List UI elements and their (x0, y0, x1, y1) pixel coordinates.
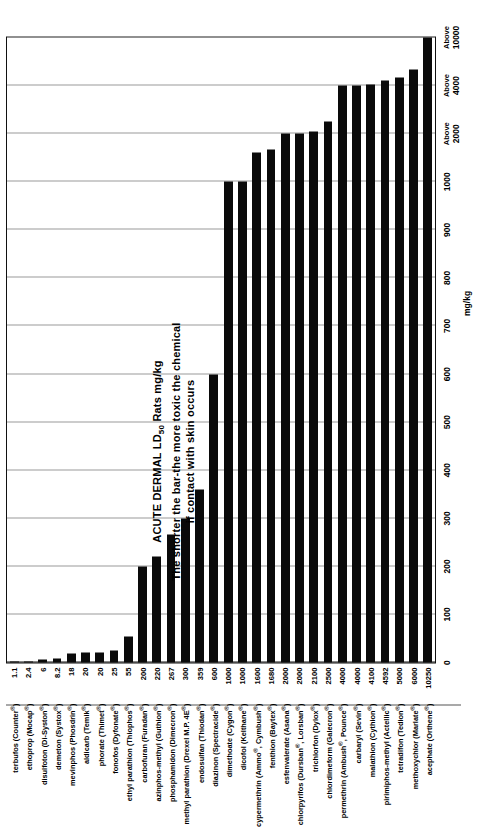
category-label: cypermethrin (Ammo®, Cymbush®) (253, 703, 263, 831)
bar (409, 69, 418, 662)
registered-mark: ® (310, 705, 316, 709)
category-label: ethoprop (Mocap®) (24, 703, 34, 831)
category-label: phorate (Thimet®) (96, 703, 106, 831)
category-label: trichlorfon (Dylox®) (310, 703, 320, 831)
category-label: methyl parathion (Drexel M.P. 4E®) (181, 703, 191, 831)
bar (209, 374, 218, 662)
x-tick-value: 4000 (451, 63, 461, 107)
bar-value-label: 6000 (410, 667, 419, 697)
category-label: dicofol (Kelthane®) (238, 703, 248, 831)
bar (252, 152, 261, 662)
bar (124, 636, 133, 662)
bar-value-label: 4000 (338, 667, 347, 697)
registered-mark: ® (153, 705, 159, 709)
bar (281, 133, 290, 662)
bar-value-label: 5000 (395, 667, 404, 697)
category-label: ethyl parathion (Thiophos®) (124, 703, 134, 831)
bar (366, 84, 375, 662)
bar (67, 653, 76, 662)
category-label: fonofos (Dyfonate®) (110, 703, 120, 831)
category-label: malathion (Cythion®) (367, 703, 377, 831)
category-label: methoxychlor (Marlate®) (410, 703, 420, 831)
registered-mark: ® (139, 705, 145, 709)
bar-value-label: 220 (153, 667, 162, 697)
bar-value-label: 200 (139, 667, 148, 697)
registered-mark: ® (238, 705, 244, 709)
bar (138, 566, 147, 662)
registered-mark: ® (196, 705, 202, 709)
bar-value-label: 20 (96, 667, 105, 697)
registered-mark: ® (395, 705, 401, 709)
x-tick-value: 600 (442, 352, 452, 396)
x-tick-value: 400 (442, 448, 452, 492)
x-tick-label: 500 (442, 400, 452, 444)
bar-value-label: 1000 (224, 667, 233, 697)
bar (423, 37, 432, 662)
bar-value-label: 20 (81, 667, 90, 697)
x-tick-value: 100 (442, 592, 452, 636)
registered-mark: ® (338, 705, 344, 709)
registered-mark: ® (295, 743, 301, 747)
bar-value-label: 18 (67, 667, 76, 697)
x-tick-label: 0 (442, 640, 452, 684)
bar-value-label: 8.2 (53, 667, 62, 697)
grid-line (7, 36, 435, 37)
x-tick-label: 600 (442, 352, 452, 396)
registered-mark: ® (81, 705, 87, 709)
registered-mark: ® (67, 705, 73, 709)
category-label: esfenvalerate (Asana®) (281, 703, 291, 831)
x-axis-title: mg/kg (462, 290, 472, 315)
registered-mark: ® (39, 705, 45, 709)
registered-mark: ® (10, 705, 16, 709)
registered-mark: ® (338, 741, 344, 745)
registered-mark: ® (281, 705, 287, 709)
bar-value-label: 4000 (353, 667, 362, 697)
bar (10, 661, 19, 662)
x-tick-value: 0 (442, 640, 452, 684)
bar (338, 85, 347, 662)
title-line-1: ACUTE DERMAL LD50 Rats mg/kg (150, 271, 169, 631)
registered-mark: ® (424, 705, 430, 709)
category-label: chlordimeform (Galecron®) (324, 703, 334, 831)
category-label: endosulfan (Thiodan®) (196, 703, 206, 831)
bar-value-label: 4592 (381, 667, 390, 697)
registered-mark: ® (53, 705, 59, 709)
registered-mark: ® (353, 705, 359, 709)
category-label: chlorpyrifos (Dursban®, Lorsban®) (295, 703, 305, 831)
bar (24, 661, 33, 662)
x-tick-value: 10000 (451, 15, 461, 59)
x-tick-value: 300 (442, 496, 452, 540)
category-label: pirimiphos-methyl (Actellic®) (381, 703, 391, 831)
registered-mark: ® (210, 705, 216, 709)
bar-value-label: 267 (167, 667, 176, 697)
plot-inner (7, 37, 435, 662)
x-tick-value: 200 (442, 544, 452, 588)
x-tick-value: 900 (442, 207, 452, 251)
x-tick-above-word: Above (442, 111, 451, 155)
bar-value-label: 4100 (367, 667, 376, 697)
bar (95, 652, 104, 662)
bar (295, 133, 304, 662)
registered-mark: ® (381, 705, 387, 709)
x-tick-label: 400 (442, 448, 452, 492)
x-tick-label: Above4000 (442, 63, 461, 107)
bar (267, 149, 276, 662)
registered-mark: ® (324, 705, 330, 709)
registered-mark: ® (367, 705, 373, 709)
category-label: terbufos (Counter®) (10, 703, 20, 831)
category-label: azinphos-methyl (Guthion®) (153, 703, 163, 831)
bar (238, 181, 247, 662)
title-line-2: The shorter the bar-the more toxic the c… (169, 271, 183, 631)
registered-mark: ® (253, 748, 259, 752)
bar (81, 652, 90, 662)
x-tick-value: 700 (442, 303, 452, 347)
category-label: dimethoate (Cygon®) (224, 703, 234, 831)
title-subscript: 50 (157, 424, 166, 433)
bar (224, 181, 233, 662)
x-tick-label: 700 (442, 303, 452, 347)
bar-value-label: 2000 (281, 667, 290, 697)
title-line-3: if contact with skin occurs (183, 271, 197, 631)
bar-value-label: 2500 (324, 667, 333, 697)
